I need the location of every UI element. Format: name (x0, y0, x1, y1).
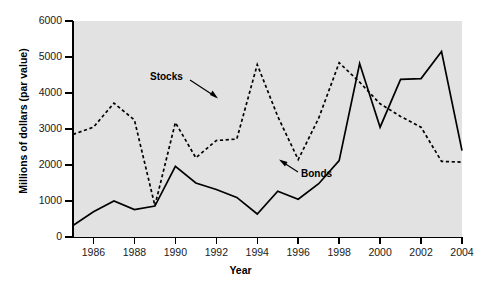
annotation-bonds: Bonds (301, 168, 332, 179)
stocks-arrow (190, 80, 218, 99)
series-line-bonds (73, 52, 462, 226)
chart-figure: Millions of dollars (par value) 01000200… (0, 0, 481, 291)
annotation-stocks: Stocks (150, 71, 183, 82)
series-lines (0, 0, 481, 291)
series-line-stocks (73, 63, 462, 206)
x-axis-title: Year (0, 264, 481, 276)
bonds-arrow (279, 160, 298, 173)
